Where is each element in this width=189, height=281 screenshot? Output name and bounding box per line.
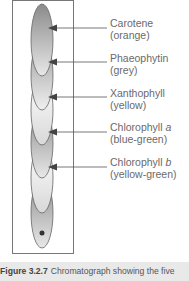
- label-carotene: Carotene (orange): [110, 17, 153, 41]
- arrow-chlorophyll-a: [48, 129, 107, 136]
- label-name: Chlorophyll: [110, 156, 165, 168]
- label-color: (yellow): [110, 99, 165, 111]
- label-chlorophyll-a: Chlorophyll a (blue-green): [110, 121, 171, 145]
- figure-caption: Figure 3.2.7Chromatograph showing the fi…: [0, 262, 189, 281]
- figure-number: Figure 3.2.7: [0, 266, 48, 276]
- arrow-carotene: [48, 25, 107, 32]
- label-xanthophyll: Xanthophyll (yellow): [110, 87, 165, 111]
- arrow-xanthophyll: [48, 94, 107, 101]
- label-name: Carotene: [110, 17, 153, 29]
- label-chlorophyll-b: Chlorophyll b (yellow-green): [110, 156, 177, 180]
- label-color: (yellow-green): [110, 168, 177, 180]
- label-name: Xanthophyll: [110, 87, 165, 99]
- label-italic: b: [165, 156, 171, 168]
- arrow-chlorophyll-b: [48, 164, 107, 171]
- label-color: (grey): [110, 64, 168, 76]
- label-name: Phaeophytin: [110, 52, 168, 64]
- band-carotene: [31, 4, 53, 76]
- label-name: Chlorophyll: [110, 121, 165, 133]
- label-italic: a: [165, 121, 171, 133]
- arrow-phaeophytin: [48, 59, 107, 66]
- label-color: (blue-green): [110, 133, 171, 145]
- label-color: (orange): [110, 29, 153, 41]
- origin-spot: [40, 231, 45, 236]
- label-phaeophytin: Phaeophytin (grey): [110, 52, 168, 76]
- caption-text: Chromatograph showing the five: [51, 266, 175, 276]
